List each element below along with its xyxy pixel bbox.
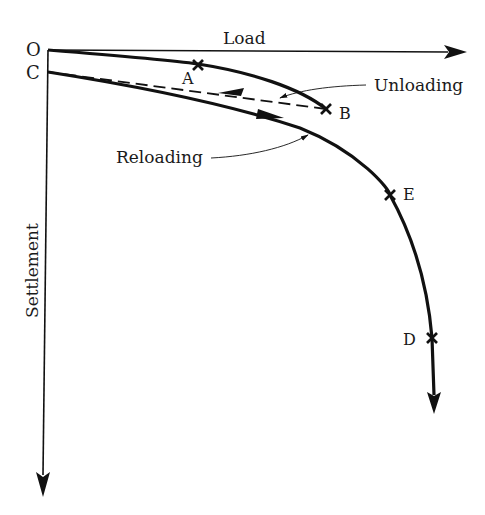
point-label-c: C [26,62,40,83]
point-label-a: A [181,69,194,88]
load-settlement-diagram: Load Settlement O C A B E D Unloading Re… [0,0,485,515]
reloading-leader-line [211,135,308,158]
settlement-axis-label: Settlement [22,223,42,318]
unloading-label: Unloading [374,75,463,95]
reloading-direction-arrow-icon [256,109,284,119]
reloading-label: Reloading [116,147,203,167]
settlement-axis-arrow-icon [36,472,50,497]
point-label-o: O [26,39,41,60]
curve-end-arrow-icon [427,392,441,414]
unloading-direction-arrow-icon [218,88,244,96]
point-label-e: E [403,185,415,204]
point-label-b: B [339,104,351,123]
load-axis-label: Load [223,28,266,48]
reloading-curve [48,72,434,395]
point-label-d: D [403,330,416,349]
